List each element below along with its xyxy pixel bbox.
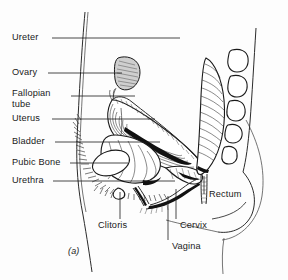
label-ovary: Ovary: [12, 67, 37, 78]
urethra-group: [133, 186, 149, 206]
label-fallopian-tube-line1: Fallopian: [12, 88, 51, 99]
sacral-vertebra-3: [227, 100, 245, 121]
clitoris-body: [113, 188, 125, 199]
sacral-vertebra-2: [228, 75, 247, 97]
coccygeal-segment-2: [222, 146, 237, 164]
leader-cervix-hook: [212, 202, 246, 219]
label-pubic-bone: Pubic Bone: [12, 157, 61, 168]
sacrum-group: [222, 49, 248, 164]
figure-caption: (a): [68, 246, 79, 257]
clitoris-group: [113, 188, 125, 199]
label-cervix: Cervix: [180, 220, 207, 231]
buttock-contour-outline: [218, 172, 254, 232]
label-fallopian-tube-line2: tube: [12, 99, 30, 110]
anatomy-figure: Ureter Ovary Fallopian tube Uterus Bladd…: [0, 0, 288, 280]
coccygeal-segment-1: [225, 124, 242, 143]
rectum-group: [197, 58, 225, 204]
label-ureter: Ureter: [12, 32, 38, 43]
vaginal-canal: [148, 183, 200, 209]
label-uterus: Uterus: [12, 113, 40, 124]
abdominal-wall-inner-line: [80, 12, 88, 212]
label-vagina: Vagina: [172, 241, 201, 252]
sacral-vertebra-1: [228, 49, 248, 72]
fimbriae: [110, 89, 115, 100]
back-contour-outline: [243, 28, 256, 172]
thigh-outline: [222, 238, 224, 274]
label-clitoris: Clitoris: [98, 220, 127, 231]
ovary-group: [113, 57, 140, 100]
label-urethra: Urethra: [12, 175, 44, 186]
label-bladder: Bladder: [12, 136, 45, 147]
label-rectum: Rectum: [209, 189, 242, 200]
anal-canal-2: [206, 174, 207, 204]
